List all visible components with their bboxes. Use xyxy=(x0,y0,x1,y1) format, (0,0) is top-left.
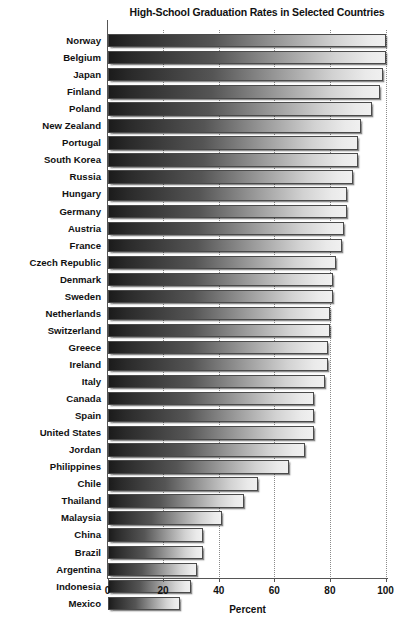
bar-canada xyxy=(108,392,314,405)
bar-wrapper xyxy=(108,290,333,303)
category-label-portugal: Portugal xyxy=(0,136,101,149)
bar-denmark xyxy=(108,273,333,286)
bar-row: South Korea xyxy=(0,153,416,170)
bar-wrapper xyxy=(108,443,305,456)
bar-wrapper xyxy=(108,392,314,405)
bar-row: France xyxy=(0,239,416,256)
bar-wrapper xyxy=(108,494,244,507)
bar-finland xyxy=(108,85,380,98)
bar-wrapper xyxy=(108,477,258,490)
bar-row: Indonesia xyxy=(0,580,416,597)
bar-wrapper xyxy=(108,580,191,593)
bar-argentina xyxy=(108,563,197,576)
bar-row: Jordan xyxy=(0,443,416,460)
bar-row: Portugal xyxy=(0,136,416,153)
bar-row: Poland xyxy=(0,102,416,119)
bar-row: Ireland xyxy=(0,358,416,375)
bar-wrapper xyxy=(108,511,222,524)
bar-row: Spain xyxy=(0,409,416,426)
bar-indonesia xyxy=(108,580,191,593)
category-label-czech-republic: Czech Republic xyxy=(0,256,101,269)
tick-label-20: 20 xyxy=(158,585,169,596)
bar-wrapper xyxy=(108,119,361,132)
tick-mark-100 xyxy=(386,578,387,582)
bar-portugal xyxy=(108,136,358,149)
category-label-russia: Russia xyxy=(0,170,101,183)
bar-row: Belgium xyxy=(0,51,416,68)
x-axis-title: Percent xyxy=(107,604,388,615)
category-label-mexico: Mexico xyxy=(0,597,101,610)
bar-wrapper xyxy=(108,460,289,473)
bar-row: Denmark xyxy=(0,273,416,290)
bar-wrapper xyxy=(108,68,383,81)
bar-austria xyxy=(108,222,344,235)
category-label-hungary: Hungary xyxy=(0,187,101,200)
bar-row: Philippines xyxy=(0,460,416,477)
bar-row: Malaysia xyxy=(0,511,416,528)
category-label-italy: Italy xyxy=(0,375,101,388)
bar-norway xyxy=(108,34,386,47)
category-label-china: China xyxy=(0,528,101,541)
bar-wrapper xyxy=(108,409,314,422)
bar-row: Sweden xyxy=(0,290,416,307)
bar-wrapper xyxy=(108,85,380,98)
bar-row: Argentina xyxy=(0,563,416,580)
category-label-united-states: United States xyxy=(0,426,101,439)
bar-wrapper xyxy=(108,239,342,252)
tick-mark-40 xyxy=(219,578,220,582)
bar-japan xyxy=(108,68,383,81)
bar-row: Chile xyxy=(0,477,416,494)
bar-wrapper xyxy=(108,375,325,388)
bar-row: Netherlands xyxy=(0,307,416,324)
bar-wrapper xyxy=(108,222,344,235)
category-label-belgium: Belgium xyxy=(0,51,101,64)
bar-united-states xyxy=(108,426,314,439)
bar-china xyxy=(108,528,203,541)
category-label-indonesia: Indonesia xyxy=(0,580,101,593)
bar-row: New Zealand xyxy=(0,119,416,136)
tick-label-80: 80 xyxy=(324,585,335,596)
category-label-argentina: Argentina xyxy=(0,563,101,576)
bar-wrapper xyxy=(108,563,197,576)
category-label-canada: Canada xyxy=(0,392,101,405)
bar-germany xyxy=(108,205,347,218)
bar-row: Switzerland xyxy=(0,324,416,341)
bar-row: Canada xyxy=(0,392,416,409)
tick-mark-0 xyxy=(108,578,109,582)
bar-sweden xyxy=(108,290,333,303)
tick-mark-60 xyxy=(274,578,275,582)
category-label-ireland: Ireland xyxy=(0,358,101,371)
bar-wrapper xyxy=(108,34,386,47)
tick-label-0: 0 xyxy=(105,585,111,596)
bar-row: Hungary xyxy=(0,187,416,204)
tick-mark-20 xyxy=(163,578,164,582)
bar-new-zealand xyxy=(108,119,361,132)
category-label-brazil: Brazil xyxy=(0,546,101,559)
bar-wrapper xyxy=(108,51,386,64)
bar-spain xyxy=(108,409,314,422)
bar-row: Greece xyxy=(0,341,416,358)
bar-wrapper xyxy=(108,136,358,149)
bar-netherlands xyxy=(108,307,330,320)
bar-row: United States xyxy=(0,426,416,443)
category-label-malaysia: Malaysia xyxy=(0,511,101,524)
bar-row: Germany xyxy=(0,205,416,222)
category-label-netherlands: Netherlands xyxy=(0,307,101,320)
bar-chart: High-School Graduation Rates in Selected… xyxy=(0,0,416,628)
bar-chile xyxy=(108,477,258,490)
category-label-switzerland: Switzerland xyxy=(0,324,101,337)
bar-belgium xyxy=(108,51,386,64)
bar-russia xyxy=(108,170,353,183)
category-label-germany: Germany xyxy=(0,205,101,218)
bar-row: Italy xyxy=(0,375,416,392)
bar-greece xyxy=(108,341,328,354)
bar-thailand xyxy=(108,494,244,507)
bar-wrapper xyxy=(108,358,328,371)
bar-philippines xyxy=(108,460,289,473)
category-label-france: France xyxy=(0,239,101,252)
bar-jordan xyxy=(108,443,305,456)
bar-wrapper xyxy=(108,426,314,439)
bar-row: Brazil xyxy=(0,546,416,563)
bar-wrapper xyxy=(108,153,358,166)
bar-wrapper xyxy=(108,528,203,541)
